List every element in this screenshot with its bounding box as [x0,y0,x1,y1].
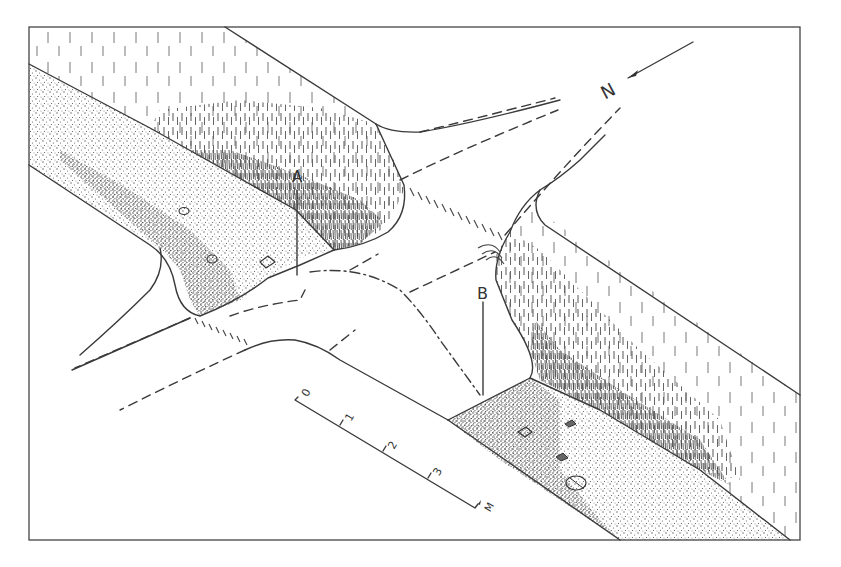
label-a: A [292,168,303,186]
label-b: B [477,284,488,303]
site-plan-figure: A B N 0 1 2 3 M [0,0,841,567]
